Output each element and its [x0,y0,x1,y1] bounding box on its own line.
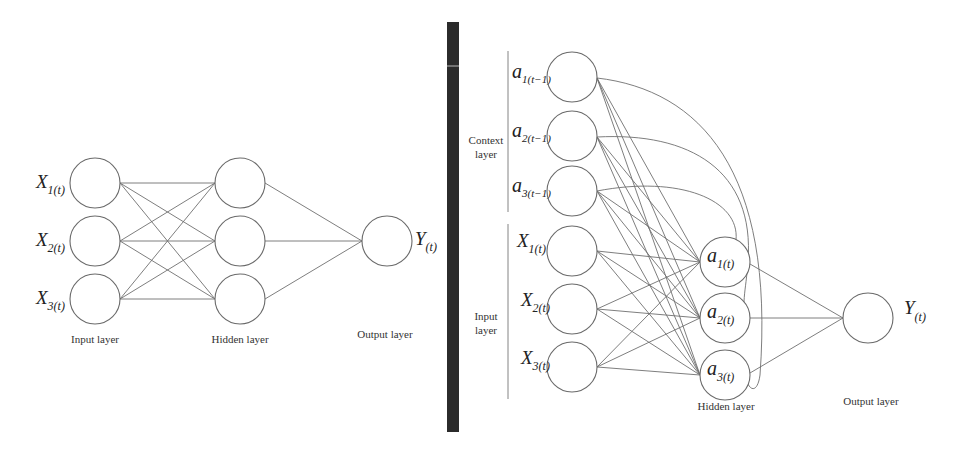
output-node-right [843,293,893,343]
output-label: Y(t) [415,228,437,254]
input-hidden-connections [120,183,215,299]
input-label-3: X3(t) [35,287,65,313]
input-label-right-1: X1(t) [516,230,546,256]
context-node-3 [547,166,597,216]
input-label-right-3: X3(t) [520,347,550,373]
input-hidden-connections-right [597,251,700,375]
context-node-2 [547,111,597,161]
input-label-right-2: X2(t) [520,289,550,315]
input-node-3 [70,274,120,324]
input-layer-label-right: Input [474,310,497,322]
output-layer-label: Output layer [357,328,413,340]
input-node-right-2 [547,284,597,334]
context-layer-label: Context [469,134,504,146]
input-node-1 [70,158,120,208]
hidden-node-1 [215,158,265,208]
input-node-2 [70,216,120,266]
input-layer-label-right-2: layer [475,324,497,336]
output-label-right: Y(t) [904,297,926,324]
context-node-1 [547,52,597,102]
feedforward-network: X1(t) X2(t) X3(t) Y(t) Input layer Hidde… [35,158,437,345]
recurrent-network: Context layer Input layer [469,51,926,412]
hidden-output-connections [265,183,362,299]
input-layer-label: Input layer [71,333,119,345]
hidden-output-connections-right [750,264,843,373]
context-label-1: a1(t−1) [512,60,551,86]
hidden-layer-label-right: Hidden layer [697,400,754,412]
context-layer-label-2: layer [475,148,497,160]
input-node-right-3 [547,342,597,392]
input-label-2: X2(t) [35,229,65,255]
context-label-2: a2(t−1) [512,119,551,145]
hidden-node-3 [215,274,265,324]
context-hidden-connections [597,78,700,375]
input-label-1: X1(t) [35,171,65,197]
output-layer-label-right: Output layer [843,395,899,407]
divider-bar [447,22,459,432]
hidden-layer-label: Hidden layer [211,333,268,345]
context-label-3: a3(t−1) [512,174,551,200]
input-node-right-1 [547,226,597,276]
output-node [362,216,412,266]
hidden-node-2 [215,216,265,266]
